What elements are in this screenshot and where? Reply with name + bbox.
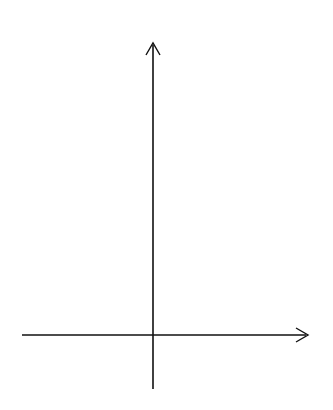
coordinate-grid bbox=[0, 0, 333, 410]
axes bbox=[22, 43, 308, 389]
